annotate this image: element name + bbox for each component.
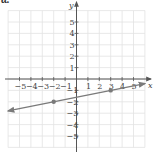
y-tick-label: 3 <box>70 41 75 50</box>
y-tick-label: −5 <box>67 132 79 141</box>
x-tick-label: 4 <box>120 82 125 91</box>
y-tick-label: 5 <box>70 18 75 27</box>
data-point <box>52 100 56 104</box>
x-tick-label: 1 <box>86 82 91 91</box>
y-tick-label: 4 <box>70 29 75 38</box>
x-tick-label: 2 <box>97 82 102 91</box>
data-point <box>109 88 113 92</box>
y-tick-label: −4 <box>67 121 79 130</box>
x-tick-label: −5 <box>15 82 27 91</box>
y-tick-label: −1 <box>67 86 79 95</box>
y-tick-label: 2 <box>70 52 75 61</box>
y-tick-label: 1 <box>70 64 75 73</box>
x-tick-label: −3 <box>37 82 49 91</box>
x-tick-label: −2 <box>49 82 61 91</box>
y-axis-label: y <box>68 1 74 10</box>
y-tick-label: −3 <box>67 109 79 118</box>
x-tick-label: −4 <box>26 82 38 91</box>
x-axis-label: x <box>148 81 153 90</box>
coordinate-graph: −5−4−3−2−112345−5−4−3−2−112345 x y <box>0 0 153 156</box>
